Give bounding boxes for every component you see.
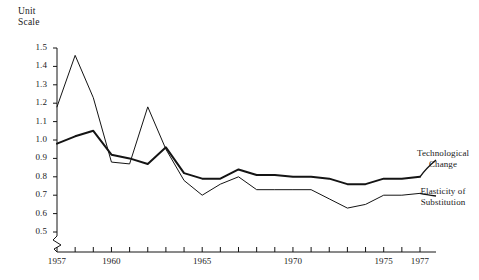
- x-axis-ticks: [57, 247, 420, 252]
- y-tick-label: 1.0: [21, 134, 47, 144]
- x-tick-label: 1970: [271, 256, 315, 266]
- y-axis-line: [53, 48, 61, 252]
- y-tick-label: 1.3: [21, 79, 47, 89]
- y-tick-label: 0.5: [21, 226, 47, 236]
- y-tick-label: 0.8: [21, 171, 47, 181]
- x-tick-label: 1957: [35, 256, 79, 266]
- y-tick-label: 0.7: [21, 189, 47, 199]
- chart-container: Unit Scale 1.51.41.31.21.11.00.90.80.70.…: [0, 0, 479, 280]
- x-tick-label: 1977: [398, 256, 442, 266]
- x-tick-label: 1960: [89, 256, 133, 266]
- y-axis-ticks: [53, 48, 57, 232]
- y-tick-label: 1.5: [21, 42, 47, 52]
- y-tick-label: 0.9: [21, 152, 47, 162]
- series-line-elasticity-of-substitution: [57, 55, 420, 208]
- series-label-elasticity-of-substitution: Elasticity of Substitution: [409, 186, 477, 207]
- y-tick-label: 0.6: [21, 208, 47, 218]
- chart-plot-area: [0, 0, 479, 280]
- series-label-technological-change: Technological Change: [409, 148, 477, 169]
- y-tick-label: 1.4: [21, 60, 47, 70]
- y-tick-label: 1.2: [21, 97, 47, 107]
- y-tick-label: 1.1: [21, 116, 47, 126]
- series-line-technological-change: [57, 131, 420, 184]
- x-tick-label: 1965: [180, 256, 224, 266]
